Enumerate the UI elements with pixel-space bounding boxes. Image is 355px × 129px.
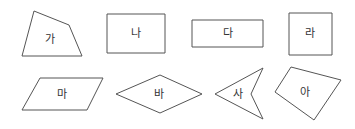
shape-na-label: 나: [131, 27, 141, 40]
shape-ra: 라: [289, 13, 332, 55]
shape-ba-label: 바: [154, 88, 164, 101]
shape-ra-label: 라: [305, 27, 315, 40]
shape-da-label: 다: [223, 27, 233, 40]
shape-ga: 가: [22, 11, 82, 56]
shape-a: 아: [275, 67, 341, 120]
shape-ba: 바: [116, 75, 202, 113]
shape-na: 나: [107, 14, 165, 53]
shape-a-label: 아: [300, 86, 310, 99]
shapes-diagram: 가 나 다 라 마 바 사 아: [0, 0, 355, 129]
shape-ma: 마: [22, 78, 103, 110]
shape-ma-label: 마: [57, 88, 67, 101]
shape-ga-label: 가: [45, 33, 55, 46]
diagram-svg: 가 나 다 라 마 바 사 아: [0, 0, 355, 129]
shape-sa-label: 사: [233, 88, 243, 101]
shape-sa: 사: [215, 68, 263, 119]
shape-da: 다: [192, 20, 263, 47]
